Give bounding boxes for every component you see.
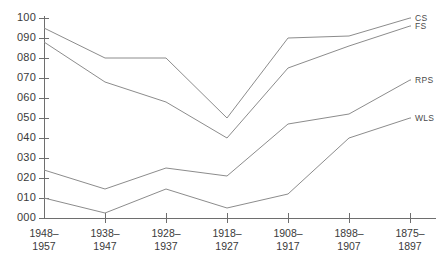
x-axis-tick-label-line: 1907: [318, 240, 380, 253]
y-axis-tick-label: 070: [6, 72, 36, 83]
series-label-rps: RPS: [415, 76, 433, 85]
x-axis-tick-label-line: 1957: [13, 240, 75, 253]
series-label-wls: WLS: [415, 114, 434, 123]
x-axis-tick-label: 1928–1937: [135, 227, 197, 252]
series-line-rps: [44, 80, 410, 189]
x-axis-tick-label-line: 1927: [196, 240, 258, 253]
y-axis-tick-label: 000: [6, 212, 36, 223]
y-axis-tick-label: 090: [6, 32, 36, 43]
y-axis-tick-label: 080: [6, 52, 36, 63]
x-axis-tick-label: 1938–1947: [74, 227, 136, 252]
chart-axes: [39, 16, 436, 223]
x-axis-tick-label-line: 1947: [74, 240, 136, 253]
x-axis-tick-label: 1908–1917: [257, 227, 319, 252]
x-axis-tick-label-line: 1875–: [379, 227, 441, 240]
y-axis-tick-label: 040: [6, 132, 36, 143]
chart-legend-leader-lines: [410, 18, 411, 118]
y-axis-tick-label: 050: [6, 112, 36, 123]
x-axis-tick-label-line: 1948–: [13, 227, 75, 240]
x-axis-tick-label-line: 1898–: [318, 227, 380, 240]
line-chart: 000010020030040050060070080090100 1948–1…: [0, 0, 442, 268]
x-axis-tick-label-line: 1938–: [74, 227, 136, 240]
x-axis-tick-label-line: 1908–: [257, 227, 319, 240]
chart-series-lines: [44, 18, 410, 213]
x-axis-tick-label-line: 1918–: [196, 227, 258, 240]
y-axis-tick-label: 060: [6, 92, 36, 103]
x-axis-tick-label-line: 1937: [135, 240, 197, 253]
x-axis-tick-label-line: 1897: [379, 240, 441, 253]
series-line-fs: [44, 26, 410, 138]
y-axis-tick-label: 100: [6, 12, 36, 23]
x-axis-tick-label-line: 1917: [257, 240, 319, 253]
y-axis-tick-label: 030: [6, 152, 36, 163]
x-axis-tick-label: 1948–1957: [13, 227, 75, 252]
y-axis-tick-label: 010: [6, 192, 36, 203]
x-axis-tick-label-line: 1928–: [135, 227, 197, 240]
y-axis-tick-label: 020: [6, 172, 36, 183]
x-axis-tick-label: 1875–1897: [379, 227, 441, 252]
series-line-cs: [44, 18, 410, 118]
series-line-wls: [44, 118, 410, 213]
x-axis-tick-label: 1898–1907: [318, 227, 380, 252]
x-axis-tick-label: 1918–1927: [196, 227, 258, 252]
series-label-fs: FS: [415, 22, 426, 31]
